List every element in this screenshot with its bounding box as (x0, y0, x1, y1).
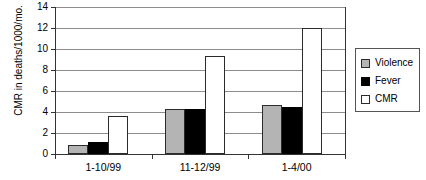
legend-item-violence: Violence (361, 54, 419, 72)
y-tick-label: 8 (10, 65, 48, 75)
x-tick-mark (248, 155, 249, 159)
bar-fever-1 (185, 109, 205, 154)
bar-violence-1 (165, 109, 185, 154)
bar-fever-0 (88, 142, 108, 154)
x-tick-mark (345, 155, 346, 159)
y-tick-label: 2 (10, 128, 48, 138)
cmr-swatch-icon (361, 95, 370, 104)
y-tick-label: 12 (10, 23, 48, 33)
gridline (56, 7, 346, 8)
violence-swatch-icon (361, 59, 370, 68)
x-tick-label: 11-12/99 (155, 161, 245, 173)
fever-swatch-icon (361, 77, 370, 86)
bar-violence-2 (262, 105, 282, 154)
legend-label: Violence (375, 58, 413, 68)
bar-chart: CMR in deaths/1000/mo. 02468101214 1-10/… (0, 0, 426, 180)
legend: ViolenceFeverCMR (355, 48, 420, 112)
bar-violence-0 (68, 145, 88, 154)
x-tick-mark-origin (55, 155, 56, 159)
legend-label: CMR (375, 94, 398, 104)
legend-item-cmr: CMR (361, 90, 419, 108)
y-tick-label: 6 (10, 86, 48, 96)
bar-cmr-0 (108, 116, 128, 154)
x-tick-label: 1-10/99 (58, 161, 148, 173)
bar-cmr-2 (302, 28, 322, 154)
y-tick-label: 14 (10, 2, 48, 12)
legend-item-fever: Fever (361, 72, 419, 90)
bar-cmr-1 (205, 56, 225, 154)
plot-right-border (345, 7, 346, 155)
plot-area (55, 7, 346, 155)
x-tick-label: 1-4/00 (252, 161, 342, 173)
y-tick-label: 0 (10, 149, 48, 159)
y-tick-label: 4 (10, 107, 48, 117)
y-tick-label: 10 (10, 44, 48, 54)
x-tick-mark (152, 155, 153, 159)
legend-label: Fever (375, 76, 401, 86)
bar-fever-2 (282, 107, 302, 154)
